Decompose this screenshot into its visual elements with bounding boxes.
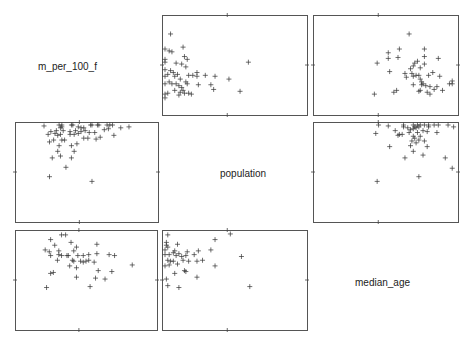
data-point-plus-icon bbox=[372, 92, 377, 97]
data-point-plus-icon bbox=[58, 132, 63, 137]
data-point-plus-icon bbox=[186, 91, 191, 96]
data-point-plus-icon bbox=[386, 123, 391, 128]
data-point-plus-icon bbox=[415, 130, 420, 135]
data-point-plus-icon bbox=[94, 242, 99, 247]
data-point-plus-icon bbox=[48, 271, 53, 276]
data-point-plus-icon bbox=[165, 258, 170, 263]
data-point-plus-icon bbox=[189, 92, 194, 97]
data-point-plus-icon bbox=[54, 128, 59, 133]
data-point-plus-icon bbox=[75, 253, 80, 258]
data-point-plus-icon bbox=[402, 71, 407, 76]
data-point-plus-icon bbox=[194, 74, 199, 79]
data-point-plus-icon bbox=[163, 95, 168, 100]
data-point-plus-icon bbox=[422, 47, 427, 52]
data-point-plus-icon bbox=[74, 265, 79, 270]
data-point-plus-icon bbox=[192, 252, 197, 257]
data-point-plus-icon bbox=[386, 50, 391, 55]
data-point-plus-icon bbox=[106, 126, 111, 131]
data-point-plus-icon bbox=[52, 243, 57, 248]
data-point-plus-icon bbox=[85, 136, 90, 141]
data-point-plus-icon bbox=[59, 253, 64, 258]
data-point-plus-icon bbox=[213, 74, 218, 79]
data-point-plus-icon bbox=[176, 93, 181, 98]
data-point-plus-icon bbox=[239, 254, 244, 259]
diagonal-label-m-per-100-f: m_per_100_f bbox=[38, 61, 97, 72]
data-point-plus-icon bbox=[238, 89, 243, 94]
data-point-plus-icon bbox=[373, 131, 378, 136]
data-point-plus-icon bbox=[411, 149, 416, 154]
data-point-plus-icon bbox=[163, 252, 168, 257]
data-point-plus-icon bbox=[78, 259, 83, 264]
data-point-plus-icon bbox=[96, 123, 101, 128]
data-point-plus-icon bbox=[407, 130, 412, 135]
data-point-plus-icon bbox=[63, 232, 68, 237]
data-point-plus-icon bbox=[176, 285, 181, 290]
data-point-plus-icon bbox=[411, 74, 416, 79]
data-point-plus-icon bbox=[111, 133, 116, 138]
panel-frame bbox=[16, 123, 159, 223]
data-point-plus-icon bbox=[376, 123, 381, 128]
data-point-plus-icon bbox=[163, 60, 168, 65]
data-point-plus-icon bbox=[450, 166, 455, 171]
data-point-plus-icon bbox=[213, 237, 218, 242]
data-point-plus-icon bbox=[182, 54, 187, 59]
data-point-plus-icon bbox=[112, 253, 117, 258]
data-point-plus-icon bbox=[181, 258, 186, 263]
data-point-plus-icon bbox=[393, 128, 398, 133]
data-point-plus-icon bbox=[418, 65, 423, 70]
data-point-plus-icon bbox=[396, 133, 401, 138]
scatter-panel-m-per-100-f-vs-population bbox=[160, 13, 309, 117]
data-point-plus-icon bbox=[400, 132, 405, 137]
data-point-plus-icon bbox=[165, 91, 170, 96]
data-point-plus-icon bbox=[208, 247, 213, 252]
data-point-plus-icon bbox=[165, 283, 170, 288]
data-point-plus-icon bbox=[109, 269, 114, 274]
data-point-plus-icon bbox=[126, 124, 131, 129]
data-point-plus-icon bbox=[174, 61, 179, 66]
data-point-plus-icon bbox=[50, 155, 55, 160]
data-point-plus-icon bbox=[72, 149, 77, 154]
data-point-plus-icon bbox=[185, 249, 190, 254]
data-point-plus-icon bbox=[451, 124, 456, 129]
diagonal-label-population: population bbox=[220, 168, 266, 179]
data-point-plus-icon bbox=[44, 285, 49, 290]
data-point-plus-icon bbox=[175, 242, 180, 247]
data-point-plus-icon bbox=[183, 64, 188, 69]
data-point-plus-icon bbox=[163, 263, 168, 268]
data-point-plus-icon bbox=[416, 174, 421, 179]
data-point-plus-icon bbox=[102, 127, 107, 132]
data-point-plus-icon bbox=[74, 275, 79, 280]
data-point-plus-icon bbox=[66, 253, 71, 258]
data-point-plus-icon bbox=[404, 75, 409, 80]
data-point-plus-icon bbox=[84, 259, 89, 264]
diagonal-label-median-age: median_age bbox=[355, 277, 410, 288]
data-point-plus-icon bbox=[387, 144, 392, 149]
data-point-plus-icon bbox=[247, 284, 252, 289]
data-point-plus-icon bbox=[69, 143, 74, 148]
data-point-plus-icon bbox=[440, 88, 445, 93]
data-point-plus-icon bbox=[427, 84, 432, 89]
data-point-plus-icon bbox=[386, 56, 391, 61]
data-point-plus-icon bbox=[443, 155, 448, 160]
data-point-plus-icon bbox=[74, 245, 79, 250]
data-point-plus-icon bbox=[421, 153, 426, 158]
data-point-plus-icon bbox=[418, 134, 423, 139]
data-point-plus-icon bbox=[167, 262, 172, 267]
data-point-plus-icon bbox=[57, 143, 62, 148]
data-point-plus-icon bbox=[422, 54, 427, 59]
data-point-plus-icon bbox=[163, 247, 168, 252]
data-point-plus-icon bbox=[42, 123, 47, 128]
data-point-plus-icon bbox=[89, 179, 94, 184]
data-point-plus-icon bbox=[96, 268, 101, 273]
data-point-plus-icon bbox=[46, 132, 51, 137]
data-point-plus-icon bbox=[421, 128, 426, 133]
data-point-plus-icon bbox=[130, 262, 135, 267]
data-point-plus-icon bbox=[94, 251, 99, 256]
data-point-plus-icon bbox=[397, 47, 402, 52]
data-point-plus-icon bbox=[186, 259, 191, 264]
data-point-plus-icon bbox=[208, 82, 213, 87]
data-point-plus-icon bbox=[51, 270, 56, 275]
data-point-plus-icon bbox=[179, 254, 184, 259]
data-point-plus-icon bbox=[402, 155, 407, 160]
data-point-plus-icon bbox=[426, 73, 431, 78]
